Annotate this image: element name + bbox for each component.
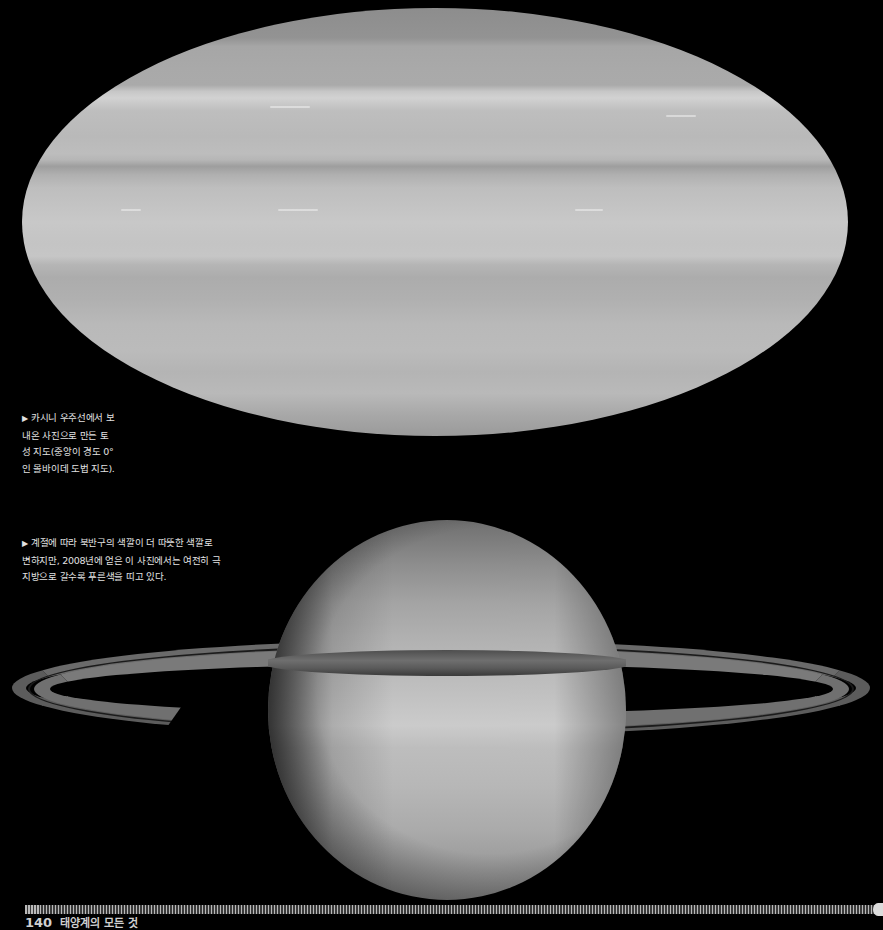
map-caption: ▶카시니 우주선에서 보 내온 사진으로 만든 토 성 지도(중앙이 경도 0°… (22, 410, 144, 477)
cloud-streak (270, 106, 310, 108)
book-title: 태양계의 모든 것 (60, 917, 138, 930)
page-footer: 140태양계의 모든 것 (25, 917, 138, 930)
triangle-marker-icon: ▶ (22, 414, 28, 423)
ring-front-arc (268, 650, 626, 676)
decorative-rule (25, 905, 875, 914)
cloud-streak (575, 209, 603, 211)
rule-end-cap (873, 903, 883, 916)
cloud-streak (666, 115, 696, 117)
globe-terminator-shade (268, 520, 626, 900)
cloud-streak (121, 209, 141, 211)
saturn-photo (0, 510, 883, 890)
page-number: 140 (25, 915, 52, 930)
cloud-streak (278, 209, 318, 211)
saturn-mollweide-map (22, 8, 848, 436)
